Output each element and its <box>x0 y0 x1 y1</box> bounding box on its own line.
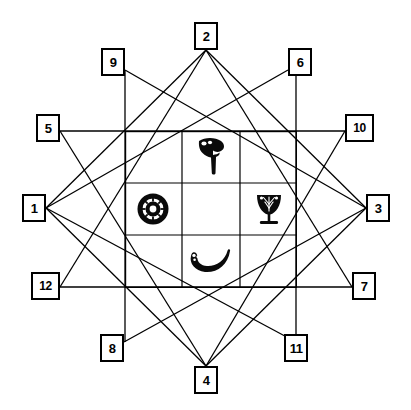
crescent-horn-icon <box>191 249 231 272</box>
node-label-10: 10 <box>353 122 365 134</box>
node-box-7[interactable]: 7 <box>352 272 376 300</box>
node-label-9: 9 <box>110 56 117 69</box>
node-label-7: 7 <box>361 280 368 293</box>
node-box-4[interactable]: 4 <box>194 366 218 394</box>
node-label-5: 5 <box>45 122 52 135</box>
node-label-6: 6 <box>297 56 304 69</box>
node-box-1[interactable]: 1 <box>22 194 46 222</box>
node-box-5[interactable]: 5 <box>36 114 60 142</box>
node-box-9[interactable]: 9 <box>101 48 125 76</box>
node-box-12[interactable]: 12 <box>31 272 60 300</box>
node-box-10[interactable]: 10 <box>345 114 374 142</box>
node-box-2[interactable]: 2 <box>194 22 218 50</box>
node-box-6[interactable]: 6 <box>288 48 312 76</box>
central-symbol-grid <box>125 131 297 288</box>
node-box-3[interactable]: 3 <box>366 194 390 222</box>
node-label-4: 4 <box>203 374 210 387</box>
node-label-2: 2 <box>203 30 210 43</box>
node-label-1: 1 <box>31 202 38 215</box>
node-box-11[interactable]: 11 <box>284 334 308 362</box>
node-box-8[interactable]: 8 <box>100 334 124 362</box>
goblet-tree-icon <box>257 195 281 224</box>
node-label-8: 8 <box>109 342 116 355</box>
node-label-12: 12 <box>39 280 51 292</box>
star-diagram-figure: 1 2 3 4 5 6 7 8 9 10 11 12 <box>0 0 411 410</box>
rosette-wheel-icon <box>138 194 169 225</box>
hammer-icon <box>199 138 224 175</box>
node-label-11: 11 <box>290 342 303 355</box>
node-label-3: 3 <box>375 202 382 215</box>
